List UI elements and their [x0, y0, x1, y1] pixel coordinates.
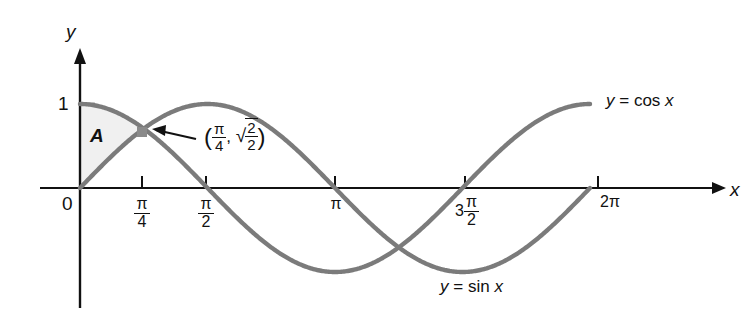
open-paren: (	[204, 123, 212, 150]
fraction-denominator: 2	[198, 214, 213, 231]
fraction-denominator: 4	[212, 138, 226, 154]
y-axis-label: y	[66, 22, 76, 41]
fraction-numerator: π	[198, 196, 213, 214]
y-tick-label-one: 1	[58, 94, 69, 113]
fraction-lead: 3	[455, 203, 464, 219]
x-tick-marks	[142, 176, 598, 188]
x-tick-label-pi: π	[328, 196, 344, 212]
intersection-point-marker	[137, 127, 147, 137]
region-a-label: A	[90, 126, 104, 145]
fraction-denominator: 2	[245, 137, 257, 153]
curve-label-lhs: y	[440, 277, 449, 296]
sqrt-expression: √ 2 2	[236, 118, 258, 153]
x-axis-arrowhead	[712, 182, 726, 194]
fraction-pi-2: π 2	[464, 194, 479, 229]
fraction-numerator: π	[212, 121, 226, 138]
fraction-2-2: 2 2	[245, 120, 257, 153]
x-tick-label-pi-over-4: π 4	[132, 196, 152, 231]
close-paren: )	[258, 123, 266, 150]
plot-canvas	[0, 0, 745, 321]
intersection-point-label: ( π 4 , √ 2 2 )	[204, 118, 266, 154]
x-axis-label: x	[730, 180, 740, 199]
fraction-pi-4: π 4	[212, 121, 226, 154]
fraction-denominator: 4	[134, 214, 149, 231]
annotation-arrow-icon	[152, 125, 196, 139]
fraction-numerator: π	[134, 196, 149, 214]
curve-label-fn: cos	[634, 91, 660, 110]
fraction-pi-2: π 2	[198, 196, 213, 231]
x-tick-label-3pi-over-2: 3 π 2	[452, 194, 482, 229]
fraction-pi-4: π 4	[134, 196, 149, 231]
curve-label-eq: =	[453, 277, 463, 296]
sine-curve-label: y = sin x	[440, 278, 503, 295]
coordinate-comma: ,	[226, 127, 231, 146]
sqrt-radicand: 2 2	[245, 118, 257, 153]
cosine-curve-label: y = cos x	[606, 92, 674, 109]
y-axis-arrowhead	[74, 48, 86, 64]
fraction-denominator: 2	[464, 212, 479, 229]
curve-label-eq: =	[619, 91, 629, 110]
x-tick-label-pi-over-2: π 2	[196, 196, 216, 231]
curve-label-arg: x	[494, 277, 503, 296]
fraction-numerator: 2	[245, 120, 257, 137]
fraction-numerator: π	[464, 194, 479, 212]
curve-label-arg: x	[665, 91, 674, 110]
curve-label-fn: sin	[468, 277, 490, 296]
sine-cosine-graph-figure: y x 0 1 A π 4 π 2 π 3 π 2 2π ( π	[0, 0, 745, 321]
mixed-fraction-3pi-2: 3 π 2	[455, 194, 479, 229]
origin-label: 0	[62, 194, 73, 213]
x-tick-label-2pi: 2π	[600, 194, 620, 210]
curve-label-lhs: y	[606, 91, 615, 110]
